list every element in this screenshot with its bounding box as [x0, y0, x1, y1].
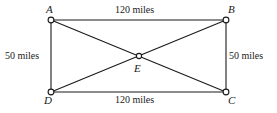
vertex-marker-a — [48, 17, 54, 23]
vertex-label-e: E — [134, 63, 141, 74]
vertex-marker-e — [136, 53, 141, 58]
vertex-label-b: B — [228, 4, 235, 15]
edge-length-left: 50 miles — [5, 51, 39, 61]
geometry-figure: A B C D E 120 miles 50 miles 120 miles 5… — [0, 0, 277, 113]
vertex-label-c: C — [228, 95, 235, 106]
vertex-label-a: A — [46, 4, 53, 15]
vertex-markers — [48, 17, 229, 95]
edge-length-top: 120 miles — [115, 5, 154, 15]
vertex-label-d: D — [44, 95, 52, 106]
edge-length-right: 50 miles — [229, 51, 263, 61]
edge-length-bottom: 120 miles — [115, 95, 154, 105]
vertex-marker-b — [223, 17, 229, 23]
